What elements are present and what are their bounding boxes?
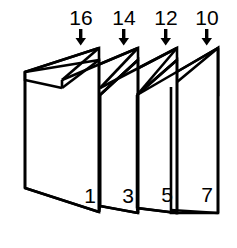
- top-label-14: 14: [112, 6, 136, 29]
- top-label-16: 16: [69, 6, 92, 29]
- down-arrow-icon-16: [76, 29, 87, 46]
- down-arrow-icon-12: [161, 29, 172, 46]
- corner-label-1: 1: [84, 184, 96, 207]
- top-label-10: 10: [195, 6, 218, 29]
- down-arrow-icon-10: [202, 29, 213, 46]
- accordion-fold-diagram: 16 14 12 10 1 3 5 7: [0, 0, 237, 248]
- corner-label-7: 7: [201, 183, 213, 206]
- top-label-12: 12: [154, 6, 177, 29]
- corner-label-3: 3: [122, 184, 134, 207]
- corner-label-5: 5: [161, 183, 173, 206]
- down-arrow-icon-14: [119, 29, 130, 46]
- fold-illustration: 16 14 12 10 1 3 5 7: [0, 0, 237, 248]
